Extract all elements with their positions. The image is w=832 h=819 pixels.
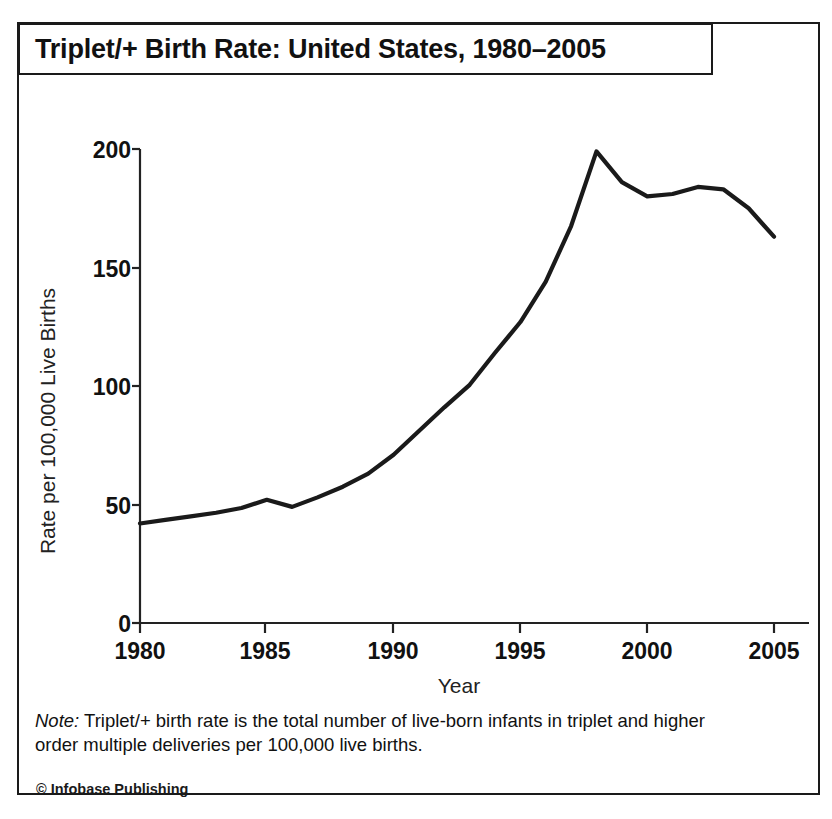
x-tick-label-1995: 1995 [494,638,545,664]
x-tick-label-1990: 1990 [367,638,418,664]
y-tick-label-100: 100 [93,374,131,400]
note-label: Note: [35,710,79,731]
page-title: Triplet/+ Birth Rate: United States, 198… [20,34,606,65]
x-tick-label-1985: 1985 [239,638,290,664]
y-tick-label-50: 50 [105,493,131,519]
line-chart-svg: Rate per 100,000 Live Births 200 150 100… [19,76,822,696]
x-tick-label-1980: 1980 [114,638,165,664]
figure-frame: Triplet/+ Birth Rate: United States, 198… [17,22,820,795]
chart-title-box: Triplet/+ Birth Rate: United States, 198… [18,23,713,75]
plot-area: Rate per 100,000 Live Births 200 150 100… [19,76,818,696]
x-tick-label-2000: 2000 [621,638,672,664]
publisher-credit: © Infobase Publishing [36,781,188,797]
data-series-line [140,151,774,523]
y-tick-label-0: 0 [118,611,131,637]
chart-note: Note: Triplet/+ birth rate is the total … [35,709,735,758]
y-tick-label-200: 200 [93,137,131,163]
y-tick-label-150: 150 [93,256,131,282]
note-body: Triplet/+ birth rate is the total number… [35,710,705,755]
y-axis-title: Rate per 100,000 Live Births [36,288,59,554]
x-tick-label-2005: 2005 [748,638,799,664]
x-axis-title: Year [438,674,480,696]
